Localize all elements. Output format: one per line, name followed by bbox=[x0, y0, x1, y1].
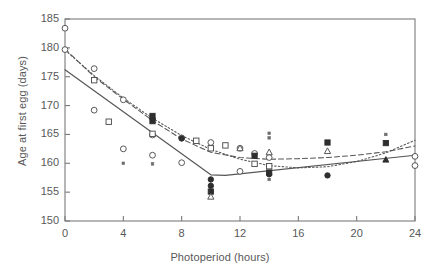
series-filled-triangle bbox=[383, 157, 389, 163]
point-filled-circle bbox=[325, 173, 330, 178]
point-small-dot bbox=[268, 137, 271, 140]
point-filled-circle bbox=[208, 183, 213, 188]
point-open-circle bbox=[412, 153, 418, 159]
point-filled-circle bbox=[208, 177, 213, 182]
point-small-dot bbox=[268, 132, 271, 135]
point-open-circle bbox=[91, 107, 97, 113]
x-tick-label-16: 16 bbox=[283, 227, 313, 239]
point-open-circle bbox=[179, 160, 185, 166]
point-open-square bbox=[223, 143, 228, 148]
point-open-circle bbox=[120, 146, 126, 152]
x-tick-label-20: 20 bbox=[342, 227, 372, 239]
fit-line-dashed-fit bbox=[65, 49, 415, 159]
y-tick-label-185: 185 bbox=[29, 12, 59, 24]
point-open-circle bbox=[266, 155, 272, 161]
series-filled-circle bbox=[150, 116, 330, 188]
point-filled-square bbox=[383, 140, 388, 145]
point-filled-square bbox=[150, 119, 155, 124]
point-open-circle bbox=[91, 66, 97, 72]
point-open-square bbox=[194, 138, 199, 143]
point-open-circle bbox=[208, 140, 214, 146]
point-open-square bbox=[266, 163, 271, 168]
y-tick-label-160: 160 bbox=[29, 156, 59, 168]
y-tick-label-175: 175 bbox=[29, 70, 59, 82]
series-open-circle bbox=[62, 25, 418, 174]
data-points bbox=[62, 25, 418, 199]
y-tick-label-170: 170 bbox=[29, 99, 59, 111]
point-open-square bbox=[252, 161, 257, 166]
point-small-dot bbox=[268, 178, 271, 181]
point-open-circle bbox=[62, 47, 68, 53]
fit-lines bbox=[65, 49, 415, 175]
x-tick-label-8: 8 bbox=[167, 227, 197, 239]
point-open-circle bbox=[412, 163, 418, 169]
point-open-circle bbox=[237, 168, 243, 174]
point-filled-square bbox=[325, 140, 330, 145]
point-small-dot bbox=[122, 162, 125, 165]
point-filled-circle bbox=[179, 136, 184, 141]
x-tick-label-4: 4 bbox=[108, 227, 138, 239]
point-filled-square bbox=[150, 113, 155, 118]
point-open-triangle bbox=[266, 149, 272, 155]
y-tick-label-165: 165 bbox=[29, 127, 59, 139]
x-tick-label-12: 12 bbox=[225, 227, 255, 239]
y-tick-label-150: 150 bbox=[29, 214, 59, 226]
point-open-triangle bbox=[324, 148, 330, 154]
chart-figure: Age at first egg (days) Photoperiod (hou… bbox=[0, 0, 440, 274]
axis-ticks bbox=[65, 19, 415, 221]
x-tick-label-24: 24 bbox=[400, 227, 430, 239]
x-axis-label: Photoperiod (hours) bbox=[0, 251, 440, 263]
x-tick-label-0: 0 bbox=[50, 227, 80, 239]
y-tick-label-155: 155 bbox=[29, 185, 59, 197]
y-axis-label-wrapper: Age at first egg (days) bbox=[0, 0, 24, 230]
point-open-circle bbox=[62, 25, 68, 31]
point-open-circle bbox=[150, 152, 156, 158]
point-small-dot bbox=[385, 133, 388, 136]
point-small-dot bbox=[151, 163, 154, 166]
point-open-square bbox=[106, 119, 111, 124]
point-filled-square bbox=[252, 153, 257, 158]
y-axis-label: Age at first egg (days) bbox=[16, 26, 28, 196]
point-open-square bbox=[91, 77, 96, 82]
point-filled-triangle bbox=[383, 157, 389, 163]
y-tick-label-180: 180 bbox=[29, 41, 59, 53]
point-filled-square bbox=[267, 170, 272, 175]
point-open-square bbox=[150, 131, 155, 136]
plot-frame bbox=[65, 19, 415, 221]
point-open-square bbox=[208, 146, 213, 151]
series-open-square bbox=[91, 77, 271, 168]
point-open-circle bbox=[120, 97, 126, 103]
